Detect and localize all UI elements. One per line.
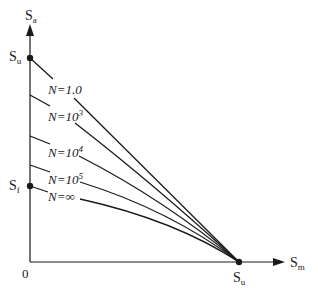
x-axis-label: Sm (290, 255, 305, 272)
curve-label-n-1e3: N=103 (47, 108, 83, 124)
sf-label: Sf (9, 178, 20, 195)
curve-label-n-1: N=1.0 (47, 82, 82, 97)
curve-label-n-inf: N=∞ (47, 189, 75, 204)
x-axis-arrow-icon (273, 258, 285, 266)
x-axis (30, 258, 285, 266)
y-axis-arrow-icon (26, 24, 34, 36)
origin-label: 0 (22, 266, 29, 281)
su-x-label: Su (233, 270, 246, 287)
curve-label-n-1e4: N=104 (47, 144, 83, 160)
curve-label-n-1e5: N=105 (47, 171, 83, 187)
constant-life-diagram: Sa Sm 0 Su Sf Su (0, 0, 318, 293)
y-axis-label: Sa (25, 8, 37, 25)
su-y-label: Su (9, 49, 22, 66)
